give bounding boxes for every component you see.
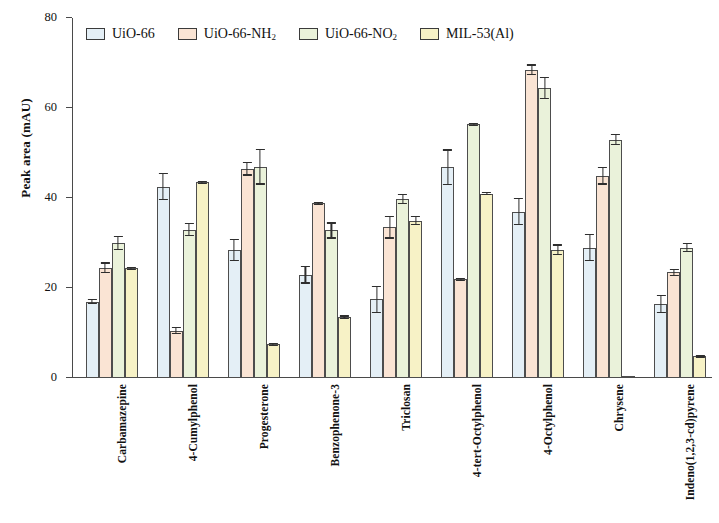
bar-0[interactable] [441, 18, 454, 378]
bar-1[interactable] [241, 18, 254, 378]
legend: UiO-66UiO-66-NH2UiO-66-NO2MIL-53(Al) [86, 26, 514, 42]
error-bar [318, 202, 319, 206]
bar-3[interactable] [480, 18, 493, 378]
bar-3[interactable] [196, 18, 209, 378]
bar-group [299, 18, 351, 378]
error-bar [544, 77, 545, 100]
bar-rect [312, 203, 325, 378]
bar-group [86, 18, 138, 378]
bar-2[interactable] [609, 18, 622, 378]
legend-item-2[interactable]: UiO-66-NO2 [299, 26, 397, 42]
legend-item-1[interactable]: UiO-66-NH2 [178, 26, 276, 42]
bar-rect [170, 331, 183, 378]
error-bar [273, 343, 274, 346]
category-label: Chrysene [613, 384, 625, 431]
bar-0[interactable] [370, 18, 383, 378]
bar-1[interactable] [383, 18, 396, 378]
bar-2[interactable] [467, 18, 480, 378]
bar-group [441, 18, 493, 378]
bar-rect [267, 344, 280, 378]
error-bar [189, 223, 190, 237]
bar-2[interactable] [396, 18, 409, 378]
bar-3[interactable] [267, 18, 280, 378]
bar-rect [467, 124, 480, 378]
legend-swatch-icon [178, 28, 197, 40]
category-label: Progesterone [258, 384, 270, 449]
bar-rect [693, 356, 706, 378]
bar-rect [667, 272, 680, 378]
legend-swatch-icon [420, 28, 439, 40]
bar-rect [609, 140, 622, 379]
error-bar [447, 149, 448, 185]
category-label: 4-Octylphenol [542, 384, 554, 455]
bar-0[interactable] [512, 18, 525, 378]
error-bar [415, 216, 416, 225]
error-bar [602, 167, 603, 185]
error-bar [673, 269, 674, 276]
bar-2[interactable] [325, 18, 338, 378]
category-label: Benzophenone-3 [329, 384, 341, 467]
bar-2[interactable] [680, 18, 693, 378]
bar-1[interactable] [99, 18, 112, 378]
bar-1[interactable] [312, 18, 325, 378]
error-bar [486, 192, 487, 196]
bar-rect [409, 221, 422, 379]
bar-group [512, 18, 564, 378]
legend-item-3[interactable]: MIL-53(Al) [420, 26, 514, 42]
bar-2[interactable] [112, 18, 125, 378]
bar-3[interactable] [125, 18, 138, 378]
category-label: Triclosan [400, 384, 412, 431]
bar-rect [196, 182, 209, 378]
bar-rect [596, 176, 609, 379]
bar-rect [157, 187, 170, 378]
bar-0[interactable] [583, 18, 596, 378]
error-bar [344, 315, 345, 319]
bar-0[interactable] [228, 18, 241, 378]
bar-3[interactable] [338, 18, 351, 378]
bar-3[interactable] [622, 18, 635, 378]
bar-rect [254, 167, 267, 379]
bar-2[interactable] [183, 18, 196, 378]
legend-swatch-icon [86, 28, 105, 40]
bar-rect [680, 248, 693, 379]
bar-rect [99, 268, 112, 378]
category-label: Carbamazepine [116, 384, 128, 463]
bar-rect [454, 279, 467, 378]
bar-1[interactable] [454, 18, 467, 378]
y-tick-label: 60 [45, 100, 58, 115]
bar-0[interactable] [654, 18, 667, 378]
error-bar [163, 173, 164, 200]
bar-0[interactable] [157, 18, 170, 378]
bar-1[interactable] [525, 18, 538, 378]
error-bar [615, 134, 616, 145]
bar-rect [480, 194, 493, 379]
error-bar [104, 262, 105, 273]
bar-rect [299, 275, 312, 379]
bar-2[interactable] [254, 18, 267, 378]
bar-1[interactable] [667, 18, 680, 378]
error-bar [202, 181, 203, 184]
bar-1[interactable] [596, 18, 609, 378]
legend-item-0[interactable]: UiO-66 [86, 26, 155, 42]
bar-0[interactable] [299, 18, 312, 378]
bar-3[interactable] [409, 18, 422, 378]
error-bar [247, 162, 248, 176]
x-axis-category-labels: Carbamazepine4-CumylphenolProgesteroneBe… [72, 384, 712, 523]
error-bar [699, 355, 700, 358]
bar-3[interactable] [551, 18, 564, 378]
error-bar [686, 243, 687, 252]
bar-rect [325, 230, 338, 378]
y-tick-label: 80 [45, 10, 58, 25]
bar-group [583, 18, 635, 378]
bar-rect [654, 304, 667, 378]
bar-2[interactable] [538, 18, 551, 378]
bar-rect [441, 167, 454, 378]
bar-0[interactable] [86, 18, 99, 378]
error-bar [402, 194, 403, 205]
bar-1[interactable] [170, 18, 183, 378]
bar-3[interactable] [693, 18, 706, 378]
error-bar [589, 234, 590, 261]
legend-label: UiO-66-NO2 [325, 26, 397, 42]
error-bar [518, 198, 519, 225]
error-bar [305, 266, 306, 284]
